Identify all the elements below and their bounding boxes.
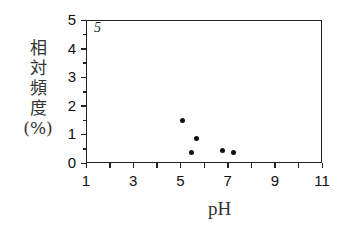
x-tick-label: 7	[216, 172, 240, 189]
plot-area	[86, 20, 322, 163]
x-tick	[251, 163, 253, 168]
y-tick	[83, 62, 86, 64]
x-tick-label: 9	[263, 172, 287, 189]
y-axis-label-line: 相	[18, 38, 58, 58]
y-tick-label: 0	[62, 155, 76, 170]
x-tick	[322, 163, 324, 168]
x-tick-label: 5	[168, 172, 192, 189]
y-tick-label: 2	[62, 98, 76, 113]
x-tick	[86, 163, 88, 168]
y-axis-label: 相 対 頻 度 (%)	[18, 38, 58, 138]
y-tick	[83, 120, 86, 122]
panel-label: 5	[94, 20, 101, 36]
x-tick	[133, 163, 135, 168]
y-tick	[81, 134, 86, 136]
y-tick	[81, 77, 86, 79]
x-tick	[204, 163, 206, 168]
x-tick	[227, 163, 229, 168]
y-tick	[81, 48, 86, 50]
y-axis-label-line: 度	[18, 98, 58, 118]
y-tick	[83, 148, 86, 150]
data-point	[180, 118, 185, 123]
x-axis-label: pH	[208, 198, 231, 220]
x-tick	[274, 163, 276, 168]
x-tick-label: 11	[310, 172, 334, 189]
x-tick	[298, 163, 300, 168]
y-tick-label: 5	[62, 12, 76, 27]
y-tick	[81, 20, 86, 22]
y-tick	[83, 91, 86, 93]
y-tick	[81, 105, 86, 107]
y-tick-label: 4	[62, 41, 76, 56]
x-tick-label: 1	[74, 172, 98, 189]
y-tick-label: 3	[62, 69, 76, 84]
y-axis-label-line: 頻	[18, 78, 58, 98]
x-tick	[156, 163, 158, 168]
y-tick-label: 1	[62, 126, 76, 141]
y-axis-label-line: (%)	[18, 118, 58, 138]
x-tick	[180, 163, 182, 168]
y-tick	[83, 34, 86, 36]
y-axis-label-line: 対	[18, 58, 58, 78]
x-tick	[109, 163, 111, 168]
x-tick-label: 3	[121, 172, 145, 189]
